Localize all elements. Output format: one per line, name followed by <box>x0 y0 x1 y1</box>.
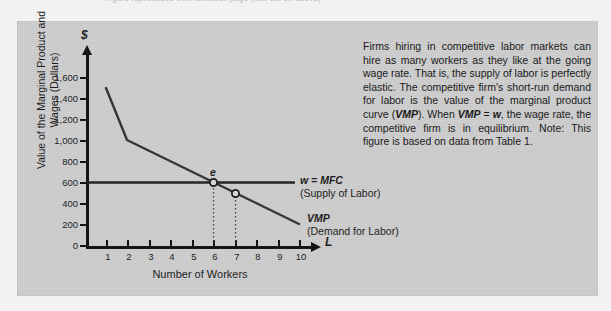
vmp-curve-subtitle: (Demand for Labor) <box>307 225 399 238</box>
supply-curve-caption: w = MFC (Supply of Labor) <box>300 174 381 200</box>
cut-off-header-text: Figure reproduced from textbook page (te… <box>105 0 435 4</box>
vmp-curve <box>106 88 299 224</box>
vmp-curve-symbol: VMP <box>307 212 399 225</box>
vmp-curve-caption: VMP (Demand for Labor) <box>307 212 399 238</box>
equilibrium-point-label: e <box>210 166 216 178</box>
supply-curve-symbol: w = MFC <box>300 174 381 187</box>
equilibrium-marker <box>210 179 217 186</box>
secondary-marker <box>232 190 239 197</box>
figure-panel: $ L 0 200 400 600 800 1,000 1,200 1,400 … <box>18 22 597 295</box>
figure-explanatory-note: Firms hiring in competitive labor market… <box>363 40 591 149</box>
supply-curve-subtitle: (Supply of Labor) <box>300 187 381 200</box>
